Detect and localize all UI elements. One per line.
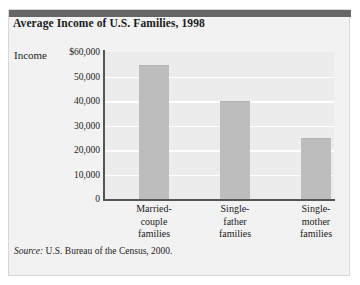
- x-tick-label-line: Single-: [195, 203, 275, 216]
- y-tick-label: $60,000: [69, 47, 100, 57]
- x-axis-line: [103, 199, 335, 201]
- y-tick-label: 50,000: [74, 72, 100, 82]
- source-text: U.S. Bureau of the Census, 2000.: [43, 246, 172, 256]
- source-note: Source: U.S. Bureau of the Census, 2000.: [14, 246, 173, 256]
- x-tick-label-line: families: [195, 228, 275, 241]
- y-axis-line: [103, 50, 105, 200]
- y-tick-label: 40,000: [74, 96, 100, 106]
- x-tick-label-line: father: [195, 216, 275, 229]
- x-tick-label-line: mother: [276, 216, 356, 229]
- bar: [139, 65, 169, 199]
- x-tick-label: Single-motherfamilies: [276, 203, 356, 241]
- x-tick-label-line: Married-: [114, 203, 194, 216]
- x-tick-label-line: families: [114, 228, 194, 241]
- y-tick-label: 0: [95, 194, 100, 204]
- y-tick-label: 10,000: [74, 170, 100, 180]
- bar: [301, 138, 331, 199]
- plot-area: [104, 52, 334, 199]
- source-label: Source:: [14, 246, 43, 256]
- x-tick-label-line: couple: [114, 216, 194, 229]
- x-tick-label: Married-couplefamilies: [114, 203, 194, 241]
- bar: [220, 101, 250, 199]
- y-axis-tick-labels: $60,00050,00040,00030,00020,00010,0000: [40, 0, 100, 285]
- x-tick-label: Single-fatherfamilies: [195, 203, 275, 241]
- y-tick-label: 20,000: [74, 145, 100, 155]
- x-tick-label-line: families: [276, 228, 356, 241]
- y-tick-label: 30,000: [74, 121, 100, 131]
- x-tick-label-line: Single-: [276, 203, 356, 216]
